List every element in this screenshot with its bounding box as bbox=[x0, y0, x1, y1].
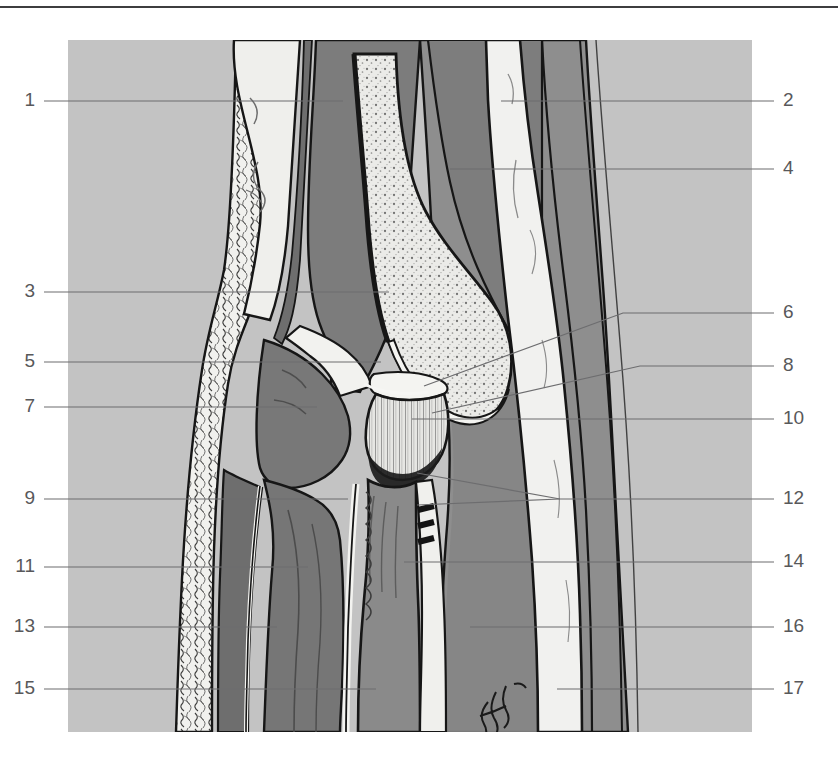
label-13: 13 bbox=[0, 616, 35, 635]
label-2: 2 bbox=[783, 90, 794, 109]
label-1: 1 bbox=[0, 90, 35, 109]
label-8: 8 bbox=[783, 355, 794, 374]
label-12: 12 bbox=[783, 488, 804, 507]
label-4: 4 bbox=[783, 158, 794, 177]
label-6: 6 bbox=[783, 302, 794, 321]
deep-flexor-compartment bbox=[264, 480, 343, 732]
knee-sagittal-section-illustration bbox=[68, 40, 752, 732]
label-3: 3 bbox=[0, 281, 35, 300]
label-16: 16 bbox=[783, 616, 804, 635]
page-top-rule bbox=[0, 6, 838, 8]
label-5: 5 bbox=[0, 351, 35, 370]
anatomical-figure-panel bbox=[68, 40, 752, 732]
label-15: 15 bbox=[0, 678, 35, 697]
label-7: 7 bbox=[0, 396, 35, 415]
label-9: 9 bbox=[0, 488, 35, 507]
label-17: 17 bbox=[783, 678, 804, 697]
label-14: 14 bbox=[783, 551, 804, 570]
label-10: 10 bbox=[783, 408, 804, 427]
label-11: 11 bbox=[0, 556, 35, 575]
